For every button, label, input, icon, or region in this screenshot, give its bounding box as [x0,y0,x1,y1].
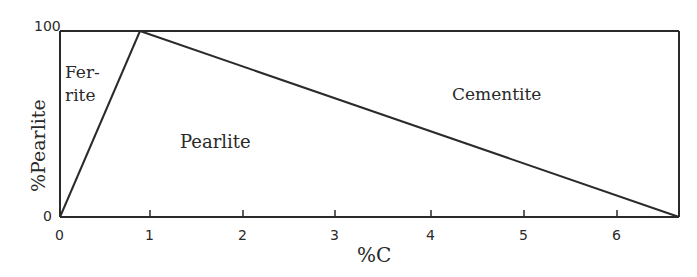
x-tick-2: 2 [238,227,247,243]
x-tick-1: 1 [145,227,154,243]
y-axis-label: %Pearlite [27,99,49,192]
pearlite-label: Pearlite [180,131,251,152]
ferrite-label-line2: rite [65,85,95,105]
ferrite-label-line1: Fer- [65,62,100,82]
x-axis-label: %C [357,243,391,267]
x-ticks [150,210,617,217]
x-tick-6: 6 [612,227,621,243]
cementite-label: Cementite [452,84,541,104]
lever-rule-chart: 100 0 0 1 2 3 4 5 6 %C %Pearlite Fer- ri… [0,0,697,277]
pearlite-cementite-line [140,31,679,217]
ferrite-pearlite-line [60,31,140,217]
y-tick-100: 100 [34,18,61,34]
y-tick-0: 0 [43,208,52,224]
x-tick-0: 0 [55,227,64,243]
x-tick-5: 5 [519,227,528,243]
x-tick-4: 4 [426,227,435,243]
x-tick-3: 3 [330,227,339,243]
